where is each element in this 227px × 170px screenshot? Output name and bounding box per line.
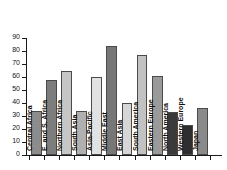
y-axis-tick-label: 10: [12, 137, 20, 145]
y-axis-tick-label: 0: [16, 150, 20, 158]
y-axis-tick-label: 90: [12, 33, 20, 41]
y-axis-tick-label: 60: [12, 72, 20, 80]
x-axis-tick: [180, 156, 181, 160]
y-axis-tick-label: 20: [12, 124, 20, 132]
bar-category-label: Japan: [192, 131, 199, 151]
y-axis-tick-label: 70: [12, 59, 20, 67]
x-axis-tick: [135, 156, 136, 160]
y-axis-tick-label: 30: [12, 111, 20, 119]
x-axis-tick: [104, 156, 105, 160]
x-axis-tick: [89, 156, 90, 160]
bar[interactable]: Eastern Europe: [152, 76, 163, 155]
x-axis-tick: [119, 156, 120, 160]
bar[interactable]: North America: [167, 112, 178, 155]
x-axis-line: [26, 155, 222, 156]
x-axis-tick: [195, 156, 196, 160]
bar-category-label: South America: [132, 102, 139, 151]
plot-area: 9080706050403020100 Central AfricaE. and…: [26, 10, 222, 155]
x-axis-tick: [44, 156, 45, 160]
y-axis-tick-label: 40: [12, 98, 20, 106]
bar[interactable]: East Asia: [122, 103, 133, 155]
bars-layer: Central AfricaE. and S. AfricaNorthern A…: [26, 10, 222, 155]
x-axis-tick: [59, 156, 60, 160]
bar-chart-figure: 9080706050403020100 Central AfricaE. and…: [0, 0, 227, 170]
bar-category-label: Middle East: [101, 112, 108, 151]
bar[interactable]: South America: [137, 55, 148, 155]
bar-category-label: Western Europe: [177, 97, 184, 151]
bar-category-label: Asia-Pacific: [86, 111, 93, 151]
bar-category-label: East Asia: [116, 120, 123, 151]
bar-category-label: Central Africa: [26, 105, 33, 151]
bar[interactable]: Japan: [197, 108, 208, 155]
bar-category-label: North America: [162, 103, 169, 151]
x-axis-tick: [165, 156, 166, 160]
y-axis-tick-label: 50: [12, 85, 20, 93]
bar-category-label: Eastern Europe: [147, 99, 154, 151]
x-axis-tick: [150, 156, 151, 160]
y-axis-tick: 0: [22, 155, 26, 156]
y-axis-tick-label: 80: [12, 46, 20, 54]
bar-category-label: South Asia: [71, 115, 78, 151]
bar-category-label: Northern Africa: [56, 100, 63, 151]
x-axis-tick: [210, 156, 211, 160]
x-axis-tick: [74, 156, 75, 160]
bar-category-label: E. and S. Africa: [41, 100, 48, 151]
x-axis-tick: [29, 156, 30, 160]
